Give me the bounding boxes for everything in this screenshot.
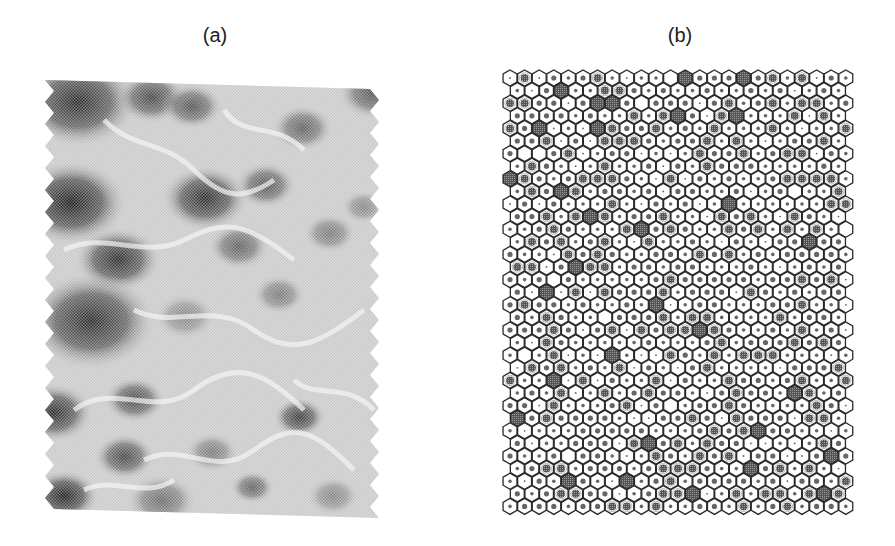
grayscale-field-image xyxy=(44,80,380,518)
grayscale-field-panel xyxy=(44,80,380,518)
panel-a-label: (a) xyxy=(185,24,245,47)
hex-grid-panel xyxy=(498,66,860,526)
panel-b-label: (b) xyxy=(650,24,710,47)
hex-grid-image xyxy=(498,66,860,526)
